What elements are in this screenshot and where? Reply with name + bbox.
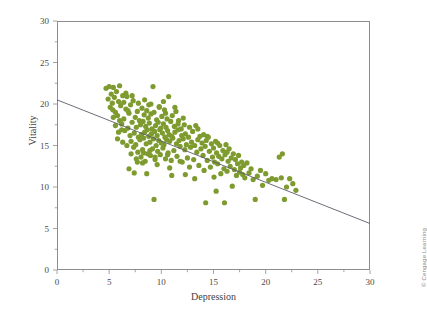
y-tick-label: 5 bbox=[27, 224, 49, 234]
x-tick-label: 25 bbox=[313, 277, 322, 287]
y-tick-label: 0 bbox=[27, 265, 49, 275]
y-axis-title: Vitality bbox=[27, 91, 38, 171]
y-tick-label: 25 bbox=[27, 58, 49, 68]
x-tick-label: 30 bbox=[366, 277, 375, 287]
x-axis-title: Depression bbox=[57, 291, 370, 302]
x-tick-label: 0 bbox=[55, 277, 60, 287]
x-tick-label: 10 bbox=[157, 277, 166, 287]
copyright-credit: © Cengage Learning bbox=[421, 228, 427, 287]
y-tick-label: 10 bbox=[27, 182, 49, 192]
x-tick-label: 5 bbox=[107, 277, 112, 287]
x-tick-label: 20 bbox=[261, 277, 270, 287]
plot-frame bbox=[57, 21, 370, 270]
x-tick-label: 15 bbox=[209, 277, 218, 287]
y-tick-label: 30 bbox=[27, 16, 49, 26]
